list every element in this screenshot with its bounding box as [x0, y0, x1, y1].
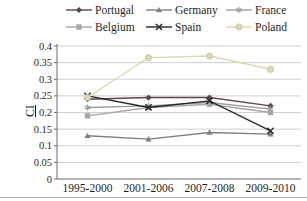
y-tick-label: 0.05: [34, 157, 52, 168]
square-marker: [85, 113, 90, 118]
y-tick-label: 0.1: [39, 140, 52, 151]
x-tick-label: 2009-2010: [246, 182, 296, 194]
series-line: [88, 96, 271, 131]
y-tick-label: 0.15: [34, 124, 52, 135]
figure-bottom-rule: [0, 197, 307, 198]
y-tick-label: 0.35: [34, 57, 52, 68]
circle-marker: [84, 94, 90, 100]
plot-area: 00.050.10.150.20.250.30.350.41995-200020…: [0, 0, 307, 201]
circle-marker: [267, 66, 273, 72]
y-tick-label: 0: [47, 174, 52, 185]
y-tick-label: 0.2: [39, 107, 52, 118]
diamond-marker: [145, 94, 151, 100]
y-tick-label: 0.25: [34, 90, 52, 101]
circle-marker: [206, 53, 212, 59]
series-germany: [84, 129, 273, 141]
line-chart-figure: PortugalGermanyFranceBelgiumSpainPoland …: [0, 0, 307, 201]
circle-marker: [145, 55, 151, 61]
y-tick-label: 0.4: [39, 41, 53, 52]
x-tick-label: 2001-2006: [124, 182, 174, 194]
y-tick-label: 0.3: [39, 74, 52, 85]
series-poland: [84, 53, 273, 101]
x-tick-label: 2007-2008: [185, 182, 235, 194]
square-marker: [268, 110, 273, 115]
series-line: [88, 132, 271, 139]
x-tick-label: 1995-2000: [63, 182, 113, 194]
